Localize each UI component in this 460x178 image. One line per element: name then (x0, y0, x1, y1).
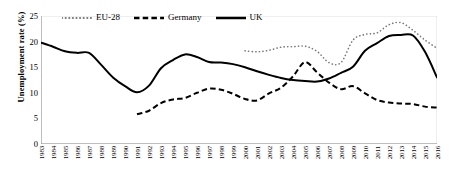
legend-swatch-dashed-icon (134, 14, 164, 22)
x-axis-tick: 2006 (314, 146, 322, 159)
x-axis-tick: 2004 (290, 146, 298, 159)
x-axis-tick: 1984 (50, 146, 58, 159)
x-axis-tick: 1990 (122, 146, 130, 159)
x-axis-tick: 1993 (158, 146, 166, 159)
legend-item-eu-28[interactable]: EU-28 (62, 13, 120, 22)
legend-item-uk[interactable]: UK (216, 13, 263, 22)
y-axis-tick: 10 (14, 88, 38, 98)
legend-item-germany[interactable]: Germany (134, 13, 202, 22)
y-axis-tick: 20 (14, 37, 38, 47)
x-axis-tick: 2007 (326, 146, 334, 159)
series-line-germany (137, 62, 437, 114)
x-axis-tick: 2001 (254, 146, 262, 159)
x-axis-tick: 2000 (242, 146, 250, 159)
x-axis-tick: 1995 (182, 146, 190, 159)
series-line-eu-28 (245, 22, 437, 64)
x-axis-tick: 1989 (110, 146, 118, 159)
x-axis-tick: 2013 (398, 146, 406, 159)
x-axis-tick: 1997 (206, 146, 214, 159)
x-axis-tick: 2008 (338, 146, 346, 159)
chart-legend: EU-28GermanyUK (62, 13, 263, 22)
x-axis-tick: 2012 (386, 146, 394, 159)
legend-label: EU-28 (96, 13, 120, 22)
x-axis-tick: 1985 (62, 146, 70, 159)
x-axis-tick: 1983 (38, 146, 46, 159)
x-axis-tick: 1996 (194, 146, 202, 159)
x-axis-tick: 2009 (350, 146, 358, 159)
x-axis-tick: 1987 (86, 146, 94, 159)
x-axis-tick-labels: 1983198419851986198719881989199019911992… (41, 146, 437, 178)
legend-label: Germany (168, 13, 202, 22)
x-axis-tick: 1992 (146, 146, 154, 159)
y-axis-tick: 25 (14, 11, 38, 21)
x-axis-tick: 1991 (134, 146, 142, 159)
x-axis-tick: 2016 (434, 146, 442, 159)
legend-swatch-dotted-icon (62, 14, 92, 22)
series-line-uk (41, 34, 437, 92)
x-axis-tick: 1999 (230, 146, 238, 159)
unemployment-rate-line-chart: Unemployment rate (%) 0510152025 1983198… (0, 0, 460, 178)
x-axis-tick: 1998 (218, 146, 226, 159)
x-axis-tick: 2015 (422, 146, 430, 159)
legend-label: UK (250, 13, 263, 22)
y-axis-tick: 5 (14, 113, 38, 123)
y-axis-tick: 15 (14, 62, 38, 72)
x-axis-tick: 2002 (266, 146, 274, 159)
y-axis-tick-labels: 0510152025 (14, 11, 38, 149)
x-axis-tick: 2014 (410, 146, 418, 159)
x-axis-tick: 1994 (170, 146, 178, 159)
x-axis-tick: 2005 (302, 146, 310, 159)
x-axis-tick: 2010 (362, 146, 370, 159)
y-axis-tick: 0 (14, 139, 38, 149)
plot-svg (41, 16, 437, 144)
legend-swatch-solid-icon (216, 14, 246, 22)
plot-frame (41, 16, 437, 144)
x-axis-tick: 2011 (374, 146, 382, 159)
x-axis-tick: 2003 (278, 146, 286, 159)
plot-area (41, 16, 437, 144)
x-axis-tick: 1986 (74, 146, 82, 159)
x-axis-tick: 1988 (98, 146, 106, 159)
